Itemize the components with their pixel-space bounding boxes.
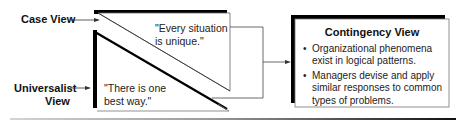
contingency-view-box: Contingency View • Organizational phenom… <box>297 19 447 105</box>
bullet-item: • Organizational phenomena exist in logi… <box>303 43 445 68</box>
case-view-label: Case View <box>21 13 75 26</box>
bullet-item: • Managers devise and apply similar resp… <box>303 70 445 107</box>
universalist-view-quote-line2: best way." <box>104 95 151 108</box>
case-view-quote-line1: "Every situation <box>155 22 228 35</box>
bullet-text: Managers devise and apply similar respon… <box>312 70 442 106</box>
bullet-icon: • <box>303 70 307 82</box>
universalist-view-label-line1: Universalist <box>14 82 76 95</box>
universalist-view-quote-line1: "There is one <box>104 82 166 95</box>
bullet-icon: • <box>303 43 307 55</box>
contingency-view-title: Contingency View <box>297 26 447 38</box>
bullet-text: Organizational phenomena exist in logica… <box>312 43 432 66</box>
bottom-divider <box>10 118 456 120</box>
case-view-quote-line2: is unique." <box>155 35 204 48</box>
universalist-view-label-line2: View <box>45 95 70 108</box>
contingency-view-bullets: • Organizational phenomena exist in logi… <box>303 43 445 109</box>
